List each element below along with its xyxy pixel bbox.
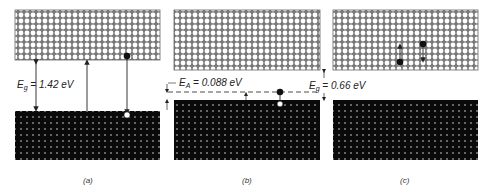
- gap-label: Eg = 1.42 eV: [17, 79, 75, 92]
- trapped-electron: [277, 89, 284, 96]
- panel-c: Eg = 0.66 eV (c): [309, 10, 478, 185]
- acceptor-label: EA = 0.088 eV: [179, 77, 243, 89]
- electron-moving-down: [420, 41, 427, 48]
- panel-b: EA = 0.088 eV (b): [167, 10, 324, 185]
- valence-band: [15, 111, 160, 160]
- electron-moving-up: [397, 59, 404, 66]
- caption-c: (c): [400, 176, 410, 185]
- hole: [277, 101, 283, 107]
- caption-a: (a): [83, 176, 93, 185]
- panel-a: Eg = 1.42 eV (a): [15, 10, 160, 185]
- hole: [124, 112, 130, 118]
- gap-label: Eg = 0.66 eV: [309, 80, 367, 93]
- caption-b: (b): [242, 176, 252, 185]
- electron: [124, 53, 131, 60]
- band-diagram-figure: Eg = 1.42 eV (a) EA = 0.088 eV (b) Eg = …: [0, 0, 491, 192]
- conduction-band: [333, 10, 478, 70]
- valence-band: [333, 100, 478, 160]
- valence-band: [174, 100, 320, 160]
- conduction-band: [174, 10, 320, 70]
- conduction-band: [15, 10, 160, 60]
